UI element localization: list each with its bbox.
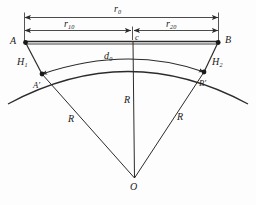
label-point-a: A (10, 36, 16, 46)
label-r10-sub: 10 (68, 23, 74, 30)
label-r0-sub: 0 (118, 8, 121, 15)
dot-b (216, 40, 221, 45)
label-radius-right: R (177, 112, 183, 122)
dot-a-prime (40, 72, 45, 77)
label-point-o: O (130, 182, 137, 192)
dot-b-prime (202, 70, 207, 75)
label-arc-d0: d0 (104, 51, 112, 61)
label-offset-h2-sub: 2 (219, 61, 222, 68)
label-point-a-prime: A′ (33, 81, 40, 90)
radius-centre-line (133, 42, 135, 178)
radius-right-line (135, 72, 205, 178)
label-offset-h2: H2 (212, 57, 222, 67)
label-arc-d0-sub: 0 (109, 55, 112, 62)
label-radius-centre: R (124, 95, 130, 105)
label-offset-h1-sub: 1 (24, 61, 27, 68)
radius-lines (42, 42, 204, 178)
figure-container: A B A′ B′ O H1 H2 d0 c R R R r0 r10 r20 (0, 0, 256, 205)
label-point-b: B (225, 35, 231, 45)
label-radius-left: R (68, 114, 74, 124)
dot-a (23, 40, 28, 45)
label-centre-c: c (135, 33, 139, 42)
label-dimension-r10: r10 (64, 19, 74, 29)
radius-left-line (42, 74, 135, 178)
label-r20-sub: 20 (170, 23, 176, 30)
chord-ab (25, 42, 219, 45)
label-dimension-r20: r20 (166, 19, 176, 29)
label-offset-h1: H1 (17, 57, 27, 67)
label-point-b-prime: B′ (199, 79, 206, 88)
offset-h1-line (26, 43, 43, 75)
label-dimension-r0: r0 (114, 4, 121, 14)
